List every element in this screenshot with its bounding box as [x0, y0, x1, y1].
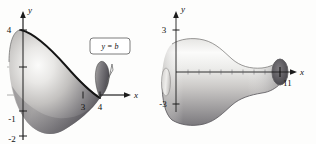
right-figure-solid-of-revolution: x y 3 -3 11 [158, 0, 316, 144]
y-axis-label: y [27, 5, 32, 15]
vase-solid [162, 39, 289, 126]
y-axis-label: y [180, 4, 185, 14]
right-figure-svg: x y 3 -3 11 [158, 0, 316, 144]
y-tick-label-minus-1: -1 [8, 114, 16, 124]
y-tick-label-minus-3: -3 [159, 99, 167, 109]
slice-ellipse [95, 61, 109, 98]
vase-left-cap [162, 68, 171, 96]
x-tick-label-4: 4 [98, 102, 103, 112]
left-figure-paraboloid: x y 4 -1 -2 3 4 y = b [0, 0, 158, 144]
x-tick-label-3: 3 [81, 102, 86, 112]
y-axis-arrowhead [173, 11, 179, 18]
y-tick-label-minus-2: -2 [8, 134, 16, 144]
vase-side-shading [162, 39, 280, 126]
callout-label: y = b [101, 42, 119, 51]
cross-section-slice [95, 61, 109, 98]
y-axis-arrowhead [20, 11, 26, 18]
y-tick-label-4: 4 [7, 25, 12, 35]
x-axis-label: x [299, 67, 304, 77]
left-figure-svg: x y 4 -1 -2 3 4 y = b [0, 0, 158, 144]
figure-pair: x y 4 -1 -2 3 4 y = b [0, 0, 316, 144]
x-tick-label-11: 11 [283, 78, 292, 88]
x-axis-label: x [133, 90, 138, 100]
x-axis-arrowhead [124, 92, 131, 98]
x-axis-arrowhead [290, 69, 297, 74]
y-tick-label-3: 3 [162, 25, 167, 35]
